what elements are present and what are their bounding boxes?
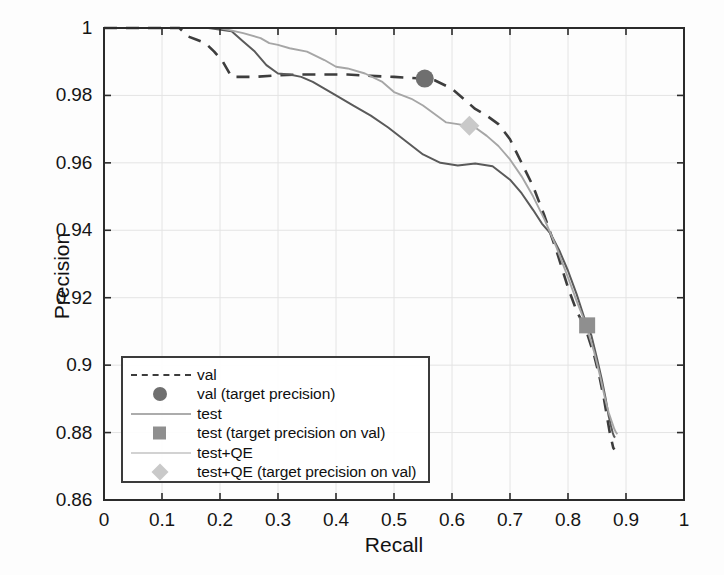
y-tick-label: 0.98 bbox=[0, 84, 92, 106]
legend-key-val-marker-icon bbox=[153, 387, 167, 401]
legend-key-slot bbox=[123, 364, 197, 385]
x-tick-label: 0.5 bbox=[381, 509, 407, 531]
legend-item-label: test+QE bbox=[197, 444, 253, 462]
legend-item: val (target precision) bbox=[123, 384, 428, 405]
legend-key-testqe-marker-icon bbox=[152, 464, 169, 481]
x-tick-label: 0.4 bbox=[323, 509, 349, 531]
y-axis-title: Precision bbox=[50, 196, 74, 356]
x-tick-label: 0.9 bbox=[613, 509, 639, 531]
legend-key-val-line bbox=[131, 374, 191, 376]
legend-key-slot bbox=[123, 423, 197, 444]
legend-item-label: val bbox=[197, 366, 217, 384]
legend-key-slot bbox=[123, 384, 197, 405]
legend-item-label: test (target precision on val) bbox=[197, 424, 385, 442]
legend-item: val bbox=[123, 364, 428, 385]
x-tick-label: 0.3 bbox=[265, 509, 291, 531]
x-tick-label: 0.8 bbox=[555, 509, 581, 531]
x-tick-label: 0.1 bbox=[149, 509, 175, 531]
legend-key-slot bbox=[123, 442, 197, 463]
y-tick-label: 0.9 bbox=[0, 354, 92, 376]
legend-key-testqe-line bbox=[131, 452, 191, 453]
data-marker-diamond bbox=[459, 116, 479, 136]
x-tick-label: 0.6 bbox=[439, 509, 465, 531]
legend-item-label: test bbox=[197, 405, 222, 423]
x-tick-label: 0.2 bbox=[207, 509, 233, 531]
legend-item: test bbox=[123, 403, 428, 424]
legend-item: test (target precision on val) bbox=[123, 423, 428, 444]
legend-key-test-line bbox=[131, 413, 191, 414]
y-tick-label: 0.92 bbox=[0, 287, 92, 309]
x-axis-title: Recall bbox=[365, 533, 423, 557]
precision-recall-figure: 0.860.880.90.920.940.960.981 00.10.20.30… bbox=[0, 0, 724, 575]
plot-canvas bbox=[0, 0, 724, 575]
data-marker-square bbox=[579, 317, 595, 333]
x-tick-label: 0 bbox=[99, 509, 109, 531]
legend-item-label: val (target precision) bbox=[197, 385, 335, 403]
legend-item-label: test+QE (target precision on val) bbox=[197, 463, 416, 481]
y-tick-label: 0.86 bbox=[0, 489, 92, 511]
data-marker-circle bbox=[416, 70, 434, 88]
y-tick-label: 1 bbox=[0, 17, 92, 39]
y-tick-label: 0.96 bbox=[0, 152, 92, 174]
legend-key-slot bbox=[123, 462, 197, 483]
x-tick-label: 0.7 bbox=[497, 509, 523, 531]
x-tick-label: 1 bbox=[679, 509, 689, 531]
legend-key-test-marker-icon bbox=[153, 427, 166, 440]
y-tick-label: 0.88 bbox=[0, 422, 92, 444]
y-tick-label: 0.94 bbox=[0, 219, 92, 241]
legend-item: test+QE (target precision on val) bbox=[123, 462, 428, 483]
legend: valval (target precision)testtest (targe… bbox=[121, 356, 430, 483]
legend-item: test+QE bbox=[123, 442, 428, 463]
legend-key-slot bbox=[123, 403, 197, 424]
